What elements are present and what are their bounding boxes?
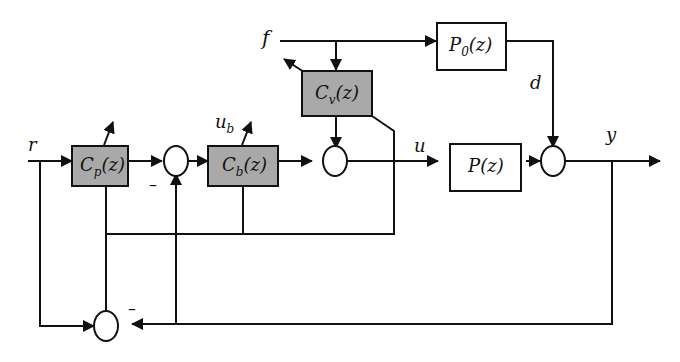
signal-label-y: y: [605, 124, 617, 145]
wire-y-feedback: [132, 161, 612, 324]
signal-label-r: r: [28, 134, 38, 155]
signal-label-d: d: [530, 72, 542, 93]
minus-sign-sum1: –: [149, 175, 157, 194]
block-p0: P0(z): [437, 23, 506, 70]
signal-label-f: f: [260, 26, 273, 50]
block-cv: Cv(z): [302, 71, 372, 116]
block-diagram: Cp(z) Cb(z) Cv(z) P0(z) P(z) – – r f ub …: [0, 0, 680, 362]
signal-label-u: u: [414, 135, 426, 156]
adapt-arrow-cb: [242, 122, 251, 145]
block-cb: Cb(z): [208, 146, 278, 186]
adapt-arrow-cp: [104, 122, 113, 145]
sum-junction-1: [164, 146, 188, 176]
sum-junction-3: [541, 146, 565, 176]
sum-junction-2: [323, 146, 347, 176]
minus-sign-bottom-sum: –: [128, 299, 136, 318]
wire-p0-to-sum3-d: [506, 41, 553, 147]
signal-label-ub: ub: [215, 111, 234, 136]
block-plant: P(z): [450, 144, 521, 191]
sum-junction-bottom: [94, 311, 118, 341]
svg-text:P(z): P(z): [467, 155, 504, 176]
block-cp: Cp(z): [72, 146, 128, 186]
